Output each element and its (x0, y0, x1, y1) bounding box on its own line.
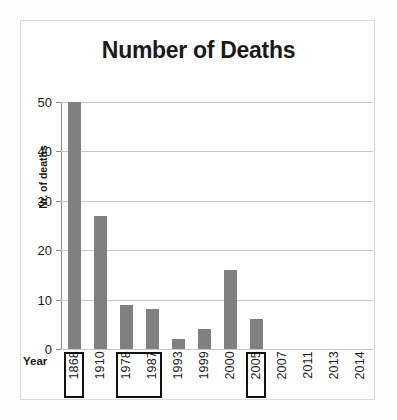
x-axis-tick-label: 2007 (276, 351, 289, 381)
x-axis-label-slot: 2013 (321, 351, 347, 399)
bar[interactable] (120, 305, 133, 349)
bar-slot (269, 102, 295, 349)
x-axis-tick-label: 1868 (68, 351, 81, 381)
x-axis-tick-label: 1978 (120, 351, 133, 381)
x-axis-label-slot: 1987 (139, 351, 165, 399)
gridline (61, 349, 373, 350)
bar[interactable] (172, 339, 185, 349)
plot-area: 01020304050 (61, 102, 373, 350)
bar[interactable] (224, 270, 237, 349)
y-tick-mark (56, 349, 61, 350)
chart-title: Number of Deaths (21, 37, 376, 64)
y-axis-tick-label: 40 (12, 144, 52, 159)
x-axis-label-slot: 2014 (347, 351, 373, 399)
bar-slot (243, 102, 269, 349)
bar-slot (87, 102, 113, 349)
bar[interactable] (68, 102, 81, 349)
chart-page: Number of Deaths Nr. of deaths 010203040… (0, 0, 397, 420)
bar-slot (165, 102, 191, 349)
bar-slot (347, 102, 373, 349)
bar-slot (139, 102, 165, 349)
chart-frame: Number of Deaths Nr. of deaths 010203040… (20, 20, 375, 400)
bar-slot (217, 102, 243, 349)
y-axis-tick-label: 30 (12, 193, 52, 208)
x-axis-tick-label: 2013 (328, 351, 341, 381)
x-axis-tick-label: 2000 (224, 351, 237, 381)
y-axis-tick-label: 50 (12, 95, 52, 110)
bar-slot (191, 102, 217, 349)
bar-slot (321, 102, 347, 349)
x-axis-label-slot: 2011 (295, 351, 321, 399)
x-axis-label-slot: 1993 (165, 351, 191, 399)
bar[interactable] (250, 319, 263, 349)
x-axis-tick-label: 2011 (302, 351, 315, 380)
x-axis-tick-label: 1999 (198, 351, 211, 381)
bar[interactable] (94, 216, 107, 349)
bar-slot (295, 102, 321, 349)
x-axis-label-slot: 2005 (243, 351, 269, 399)
x-axis-label-slot: 2007 (269, 351, 295, 399)
x-axis-labels: 1868191019781987199319992000200520072011… (61, 351, 373, 399)
x-axis-label-slot: 1910 (87, 351, 113, 399)
x-axis-label-slot: 2000 (217, 351, 243, 399)
x-axis-label-slot: 1868 (61, 351, 87, 399)
y-axis-tick-label: 20 (12, 243, 52, 258)
x-axis-tick-label: 1987 (146, 351, 159, 381)
x-axis-label-slot: 1978 (113, 351, 139, 399)
bar-slot (113, 102, 139, 349)
bar-slot (61, 102, 87, 349)
x-axis-tick-label: 1993 (172, 351, 185, 381)
bar[interactable] (198, 329, 211, 349)
x-axis-tick-label: 2014 (354, 351, 367, 381)
x-axis-label-slot: 1999 (191, 351, 217, 399)
y-axis-tick-label: 10 (12, 292, 52, 307)
x-axis-tick-label: 2005 (250, 351, 263, 381)
x-axis-title: Year (23, 355, 47, 367)
x-axis-tick-label: 1910 (94, 351, 107, 381)
bar[interactable] (146, 309, 159, 349)
